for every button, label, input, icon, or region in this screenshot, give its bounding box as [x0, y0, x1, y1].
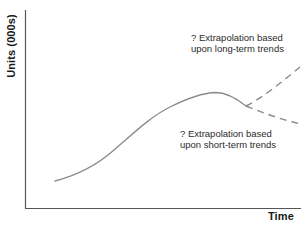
short-term-extrapolation-line: [246, 106, 301, 124]
long-term-extrapolation-annotation: ? Extrapolation based upon long-term tre…: [191, 32, 284, 54]
long-term-annotation-line-1: ? Extrapolation based: [191, 32, 284, 43]
short-term-annotation-line-1: ? Extrapolation based: [180, 128, 276, 139]
long-term-annotation-line-2: upon long-term trends: [191, 43, 284, 54]
short-term-extrapolation-annotation: ? Extrapolation based upon short-term tr…: [180, 128, 276, 150]
short-term-annotation-line-2: upon short-term trends: [180, 139, 276, 150]
extrapolation-chart: Units (000s) Time ? Extrapolation based …: [0, 0, 306, 230]
y-axis-title: Units (000s): [5, 13, 17, 79]
x-axis-title: Time: [268, 210, 294, 222]
long-term-extrapolation-line: [246, 67, 300, 106]
